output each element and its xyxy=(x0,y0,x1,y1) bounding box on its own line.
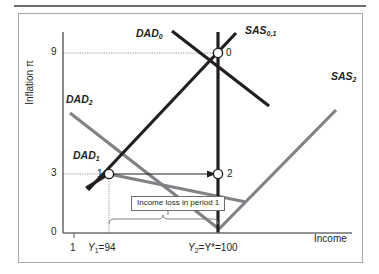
sas01-base: SAS xyxy=(245,24,267,36)
curve-label-dad0: DAD0 xyxy=(136,28,163,39)
dad1-base: DAD xyxy=(73,149,96,161)
curve-dad0 xyxy=(172,31,269,106)
dad0-subscript: 0 xyxy=(159,33,163,40)
income-loss-annotation: Income loss in period 1 xyxy=(131,196,225,211)
curve-label-dad1: DAD1 xyxy=(73,150,100,161)
point-label-2: 2 xyxy=(227,169,233,179)
equilibrium-point-2[interactable] xyxy=(213,169,222,178)
y2-value: =Y*=100 xyxy=(199,242,238,253)
sas2-subscript: 2 xyxy=(353,76,357,83)
x-tick-label-y1: Y1=94 xyxy=(88,243,116,253)
point-label-1: 1 xyxy=(97,169,103,179)
y-tick-label-0: 0 xyxy=(51,227,57,237)
curve-label-sas2: SAS2 xyxy=(331,71,357,82)
y-tick-label-3: 3 xyxy=(51,168,57,178)
y-axis-label: Inflation π xyxy=(24,47,35,119)
x-tick-label-y2: Y2=Y*=100 xyxy=(188,243,238,253)
dad0-base: DAD xyxy=(136,27,159,39)
equilibrium-point-1[interactable] xyxy=(104,169,113,178)
figure-container: Inflation π 9 3 0 1 Y1=94 Y2=Y*=100 Inco… xyxy=(0,0,379,274)
dad2-subscript: 2 xyxy=(89,99,93,106)
curve-sas01 xyxy=(88,33,236,190)
y2-subscript: 2 xyxy=(195,247,199,254)
curve-label-dad2: DAD2 xyxy=(66,94,93,105)
y-tick-label-9: 9 xyxy=(51,47,57,57)
x-axis-label: Income xyxy=(314,234,347,244)
curve-label-sas01: SAS0,1 xyxy=(245,25,276,36)
sas2-base: SAS xyxy=(331,70,353,82)
dad2-base: DAD xyxy=(66,93,89,105)
equilibrium-point-0[interactable] xyxy=(213,48,222,57)
x-tick-label-1: 1 xyxy=(70,243,76,253)
sas01-subscript: 0,1 xyxy=(267,30,277,37)
y2-symbol: Y xyxy=(188,242,195,253)
y1-symbol: Y xyxy=(88,242,95,253)
y1-subscript: 1 xyxy=(95,247,99,254)
point-label-0: 0 xyxy=(226,48,232,58)
curve-sas2 xyxy=(219,110,336,229)
dad1-subscript: 1 xyxy=(96,155,100,162)
y1-value: =94 xyxy=(99,242,116,253)
